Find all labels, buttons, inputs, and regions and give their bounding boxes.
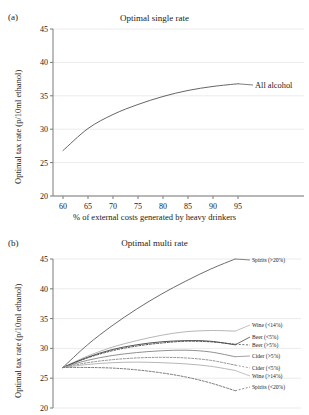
series-line [63,367,235,390]
svg-text:40: 40 [40,285,48,294]
panel-a: (a) Optimal single rate Optimal tax rate… [0,0,309,232]
series-label: Beer (<5%) [252,334,278,341]
svg-text:90: 90 [209,202,217,211]
svg-text:45: 45 [40,255,48,264]
svg-text:60: 60 [59,202,67,211]
svg-text:40: 40 [40,58,48,67]
svg-text:35: 35 [40,92,48,101]
panel-b-plot: 202530354045Spirits (>20%)Wine (<14%)Bee… [0,232,309,415]
svg-text:80: 80 [159,202,167,211]
svg-text:25: 25 [40,159,48,168]
panel-a-x-axis-label: % of external costs generated by heavy d… [0,212,309,222]
svg-text:65: 65 [84,202,92,211]
svg-text:25: 25 [40,374,48,383]
svg-text:20: 20 [40,192,48,201]
series-leader-line [235,337,250,345]
series-label: Wine (<14%) [252,322,283,329]
series-leader-line [235,344,250,345]
svg-text:30: 30 [40,344,48,353]
series-leader-line [235,387,250,391]
series-leader-line [235,356,250,357]
panel-a-plot: 2025303540456065707580859095All alcohol [0,0,309,232]
svg-text:30: 30 [40,125,48,134]
series-label: Cider (>5%) [252,353,280,360]
series-line [63,84,238,151]
series-line [63,341,235,368]
svg-text:20: 20 [40,404,48,413]
figure-optimal-alcohol-tax-rates: (a) Optimal single rate Optimal tax rate… [0,0,309,415]
series-label: Beer (>5%) [252,342,278,349]
svg-text:70: 70 [109,202,117,211]
series-label: Wine (>14%) [252,373,283,380]
series-line [63,362,235,370]
series-leader-line [235,371,250,377]
series-label: Spirits (>20%) [252,257,285,264]
svg-text:95: 95 [234,202,242,211]
series-line [63,350,235,367]
svg-text:85: 85 [184,202,192,211]
series-leader-line [238,84,253,85]
series-label: Spirits (<20%) [252,384,285,391]
series-label: All alcohol [255,81,293,90]
svg-text:75: 75 [134,202,142,211]
series-leader-line [235,365,250,368]
panel-b: (b) Optimal multi rate Optimal tax rate … [0,232,309,415]
series-leader-line [235,325,250,331]
series-line [63,341,235,367]
svg-text:35: 35 [40,315,48,324]
svg-text:45: 45 [40,25,48,34]
series-label: Cider (<5%) [252,365,280,372]
